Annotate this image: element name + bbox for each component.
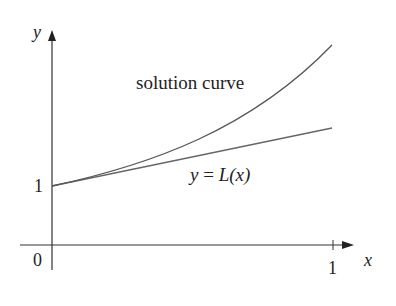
tangent-line-label-lhs: y	[190, 164, 198, 185]
x-axis-arrow-icon	[342, 241, 354, 249]
tangent-line-label: y = L(x)	[190, 164, 250, 186]
x-tick-label-1: 1	[328, 258, 337, 279]
linear-approximation-diagram: y x 0 1 1 solution curve y = L(x)	[0, 0, 396, 306]
tangent-line-label-arg: (x)	[229, 164, 250, 185]
y-axis-label: y	[33, 22, 41, 43]
tangent-line-label-eq: =	[203, 164, 214, 185]
x-axis-label: x	[364, 250, 372, 271]
origin-label: 0	[33, 250, 42, 271]
tangent-line-label-fn: L	[219, 164, 230, 185]
solution-curve-label: solution curve	[136, 72, 244, 94]
y-axis-arrow-icon	[48, 30, 56, 41]
y-tick-label-1: 1	[34, 176, 43, 197]
